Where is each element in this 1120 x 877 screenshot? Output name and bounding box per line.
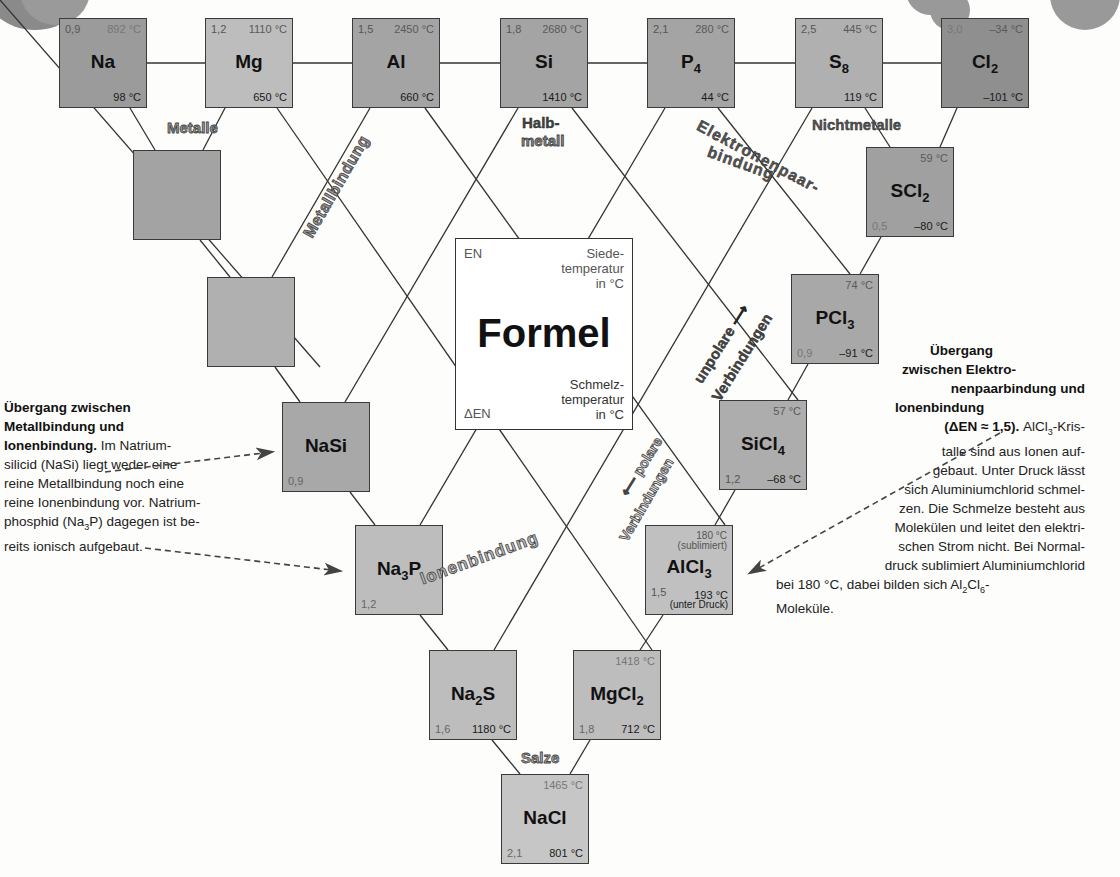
inner-lines	[0, 0, 1089, 877]
